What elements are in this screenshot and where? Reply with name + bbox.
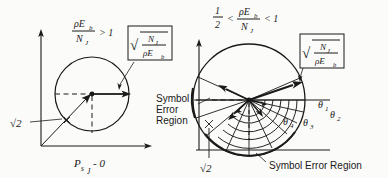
- left-condition-numerator: ρE: [73, 18, 85, 29]
- right-radical-denominator: ρE: [314, 56, 325, 66]
- right-condition-denominator: N: [240, 21, 249, 32]
- angle-label-theta3-sub: 3: [309, 123, 314, 131]
- left-axis-value: - 0: [93, 157, 105, 169]
- left-radical-numerator: N: [147, 34, 155, 44]
- left-sqrt2-label: √2: [10, 117, 22, 129]
- right-radical-numerator: N: [319, 42, 327, 52]
- left-radical-sign: √: [130, 37, 139, 53]
- right-condition-numerator: ρE: [238, 6, 250, 17]
- center-annotation-line1: Symbol: [156, 93, 189, 104]
- right-condition-lhs-den: 2: [215, 19, 220, 30]
- angle-label-theta1-sub: 1: [325, 105, 329, 113]
- angle-label-theta1: θ: [318, 99, 323, 110]
- left-condition-denominator: N: [75, 33, 84, 44]
- right-condition-lhs-num: 1: [215, 5, 220, 16]
- right-condition-relation-left: <: [227, 13, 234, 24]
- left-axis-sub1: s: [81, 164, 84, 173]
- right-sqrt2-label: √2: [200, 162, 212, 174]
- angle-label-theta3: θ: [303, 117, 308, 128]
- left-radical-denominator: ρE: [142, 48, 153, 58]
- angle-label-theta2-sub: 2: [337, 115, 341, 123]
- phasor-diagram-figure: ρE b N J > 1 √ N J ρE b √2 P s J - 0: [0, 0, 388, 178]
- left-condition-relation: > 1: [99, 27, 113, 38]
- angle-label-theta2: θ: [330, 109, 335, 120]
- angle-label-theta4: θ: [283, 116, 288, 127]
- left-axis-symbol: P: [73, 157, 81, 169]
- angle-label-theta4-sub: 4: [290, 122, 294, 130]
- center-annotation-line2: Error: [156, 104, 179, 115]
- right-caption: Symbol Error Region: [269, 160, 362, 171]
- center-annotation-line3: Region: [156, 115, 188, 126]
- right-condition-relation-right: < 1: [264, 13, 278, 24]
- right-radical-sign: √: [302, 45, 311, 61]
